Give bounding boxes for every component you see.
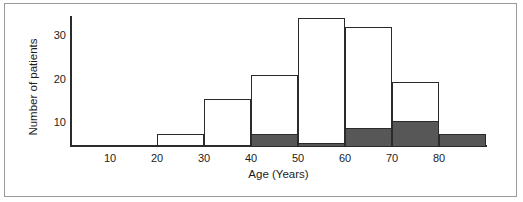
bar-total-50-60 (298, 18, 345, 146)
x-tick-label-80: 80 (424, 152, 454, 164)
x-tick-label-10: 10 (95, 152, 125, 164)
bar-total-20-30 (157, 134, 204, 146)
x-tick-label-40: 40 (236, 152, 266, 164)
y-tick-label-30: 30 (42, 29, 66, 41)
y-axis-line (70, 16, 72, 147)
bar-shaded-60-70 (345, 128, 392, 146)
x-axis-title: Age (Years) (70, 168, 487, 180)
bar-shaded-70-80 (392, 121, 439, 146)
y-axis-title: Number of patients (27, 27, 39, 147)
x-tick-label-60: 60 (330, 152, 360, 164)
bar-shaded-40-50 (251, 134, 298, 146)
y-tick-label-10: 10 (42, 116, 66, 128)
x-tick-label-30: 30 (189, 152, 219, 164)
histogram-plot-area: Number of patients Age (Years) 30 20 10 … (0, 0, 523, 202)
x-tick-label-50: 50 (283, 152, 313, 164)
x-tick-label-70: 70 (377, 152, 407, 164)
figure-container: Number of patients Age (Years) 30 20 10 … (0, 0, 523, 202)
bar-total-30-40 (204, 99, 251, 146)
bar-shaded-50-60 (298, 143, 345, 146)
x-tick-label-20: 20 (142, 152, 172, 164)
y-tick-label-20: 20 (42, 73, 66, 85)
bar-shaded-80-90 (439, 134, 486, 146)
